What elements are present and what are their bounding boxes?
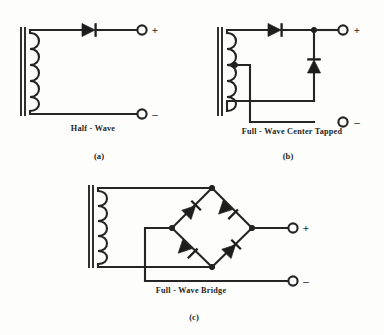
caption-bridge: Full - Wave Bridge	[156, 286, 227, 295]
caption-center-tapped: Full - Wave Center Tapped	[242, 127, 343, 136]
terminal-half-wave-negative	[137, 109, 146, 118]
top-lead-bridge	[98, 188, 212, 191]
polarity-bridge-negative: –	[302, 275, 309, 287]
transformer-coil-half-wave	[30, 33, 39, 111]
rectifier-diagram-canvas: + – Half - Wave (a)	[0, 0, 384, 335]
transformer-core-center-tapped	[218, 27, 222, 116]
transformer-coil-bridge	[98, 191, 107, 264]
polarity-bridge-positive: +	[303, 222, 309, 234]
bottom-rail-half-wave	[30, 111, 137, 114]
subfigure-label-a: (a)	[94, 151, 104, 161]
diode-center-tapped-d1	[268, 23, 285, 37]
transformer-coil-center-tapped	[227, 33, 236, 111]
polarity-center-tapped-negative: –	[353, 116, 360, 128]
caption-half-wave: Half - Wave	[71, 124, 116, 133]
transformer-core-half-wave	[21, 27, 25, 116]
bottom-lead-bridge	[98, 264, 212, 267]
polarity-center-tapped-positive: +	[354, 24, 360, 36]
circuit-bridge: + – Full - Wave Bridge (c)	[89, 185, 309, 322]
rectifier-figure: + – Half - Wave (a)	[0, 0, 384, 335]
polarity-half-wave-negative: –	[151, 108, 158, 120]
subfigure-label-c: (c)	[189, 312, 199, 322]
circuit-center-tapped: + – Full - Wave Center Tapped (b)	[218, 23, 360, 161]
terminal-bridge-negative	[288, 276, 297, 285]
polarity-half-wave-positive: +	[152, 24, 158, 36]
terminal-half-wave-positive	[137, 25, 146, 34]
diode-half-wave-d1	[82, 23, 99, 37]
subfigure-label-b: (b)	[283, 151, 294, 161]
center-tap-wire	[235, 65, 314, 122]
terminal-center-tapped-negative	[338, 117, 347, 126]
transformer-core-bridge	[89, 185, 93, 268]
bridge-arm-bottom-left	[172, 228, 212, 267]
bottom-rail-center-tapped	[227, 101, 314, 111]
terminal-center-tapped-positive	[338, 25, 347, 34]
diode-center-tapped-d2	[307, 57, 321, 73]
terminal-bridge-positive	[288, 223, 297, 232]
circuit-half-wave: + – Half - Wave (a)	[21, 23, 158, 161]
bridge-arm-top-right	[212, 188, 252, 228]
output-rail-bridge-negative	[145, 228, 288, 281]
